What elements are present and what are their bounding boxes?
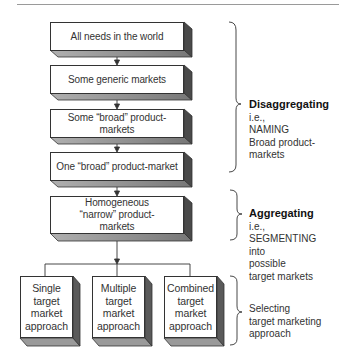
annotation-line: target markets bbox=[249, 271, 313, 282]
box-label: One “broad” product-market bbox=[56, 161, 177, 173]
box-label: Some generic markets bbox=[68, 74, 166, 86]
annotation-line: into bbox=[249, 246, 265, 257]
box-single-target: Single target market approach bbox=[20, 276, 73, 338]
box-broad-product-markets: Some “broad” product-markets bbox=[50, 109, 184, 138]
annotation-line: Broad product-markets bbox=[249, 137, 315, 161]
brace-disaggregating bbox=[229, 22, 241, 172]
annotation-selecting: Selecting target marketing approach bbox=[249, 303, 321, 341]
annotation-line: SEGMENTING bbox=[249, 233, 316, 244]
annotation-line: possible bbox=[249, 258, 286, 269]
annotation-aggregating: Aggregating i.e., SEGMENTING into possib… bbox=[249, 207, 316, 283]
box-multiple-target: Multiple target market approach bbox=[92, 276, 145, 338]
box-generic-markets: Some generic markets bbox=[50, 65, 184, 94]
box-combined-target: Combined target market approach bbox=[164, 276, 217, 338]
annotation-title: Aggregating bbox=[249, 207, 314, 219]
annotation-line: NAMING bbox=[249, 124, 289, 135]
annotation-disaggregating: Disaggregating i.e., NAMING Broad produc… bbox=[249, 98, 339, 162]
braces bbox=[229, 22, 242, 345]
annotation-line: target marketing bbox=[249, 316, 321, 327]
annotation-title: Disaggregating bbox=[249, 98, 329, 110]
brace-aggregating bbox=[230, 190, 242, 240]
annotation-line: approach bbox=[249, 328, 291, 339]
box-label: Single target market approach bbox=[25, 282, 68, 332]
annotation-line: i.e., bbox=[249, 221, 265, 232]
box-all-needs: All needs in the world bbox=[50, 22, 184, 51]
box-label: Some “broad” product-markets bbox=[51, 112, 183, 136]
box-label: Homogeneous “narrow” product-markets bbox=[79, 197, 155, 233]
box-label: Combined target market approach bbox=[167, 282, 214, 332]
annotation-line: i.e., bbox=[249, 112, 265, 123]
box-label: Multiple target market approach bbox=[97, 282, 140, 332]
box-one-broad-product-market: One “broad” product-market bbox=[50, 152, 184, 181]
annotation-line: Selecting bbox=[249, 303, 290, 314]
box-label: All needs in the world bbox=[71, 31, 164, 43]
brace-selecting bbox=[230, 276, 242, 345]
box-homogeneous-narrow: Homogeneous “narrow” product-markets bbox=[50, 196, 184, 234]
